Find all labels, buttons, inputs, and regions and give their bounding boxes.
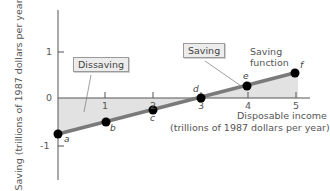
point-label-d: d [193,84,199,94]
y-tick-1: 1 [46,46,52,57]
dissaving-callout: Dissaving [73,57,129,72]
x-tick-2: 2 [150,100,156,111]
point-label-b: b [110,123,116,133]
x-tick-3: 3 [198,100,204,111]
y-axis-label: Saving (trillions of 1987 dollars per ye… [13,1,24,191]
x-tick-1: 1 [102,100,108,111]
point-a [54,130,63,139]
point-label-c: c [150,113,155,123]
point-label-f: f [300,60,303,70]
point-label-a: a [64,134,70,144]
x-axis-label-line2: (trillions of 1987 dollars per year) [170,122,330,133]
saving-function-label-line2: function [250,57,289,68]
y-tick-0: 0 [46,92,52,103]
x-axis-label-line1: Disposable income [237,110,327,121]
saving-callout: Saving [183,43,225,58]
point-e [243,82,252,91]
point-f [291,69,300,78]
saving-function-label-line1: Saving [250,46,282,57]
y-tick-neg1: -1 [40,140,49,151]
point-label-e: e [243,71,249,81]
